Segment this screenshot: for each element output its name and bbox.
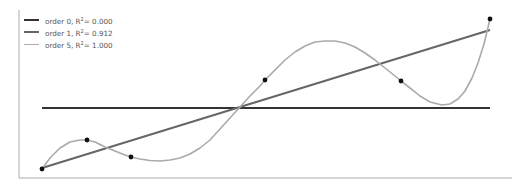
legend-label-order-5: order 5, R2= 1.000 xyxy=(45,37,113,52)
data-point xyxy=(129,155,134,160)
data-point xyxy=(85,138,90,143)
data-point xyxy=(399,79,404,84)
legend: order 0, R2= 0.000 order 1, R2= 0.912 or… xyxy=(24,14,113,50)
legend-item-order-5: order 5, R2= 1.000 xyxy=(24,38,113,50)
legend-swatch-order-1 xyxy=(24,31,39,33)
legend-swatch-order-0 xyxy=(24,19,39,21)
data-point xyxy=(263,78,268,83)
data-point xyxy=(40,167,45,172)
legend-swatch-order-5 xyxy=(24,44,39,45)
data-point xyxy=(488,17,493,22)
